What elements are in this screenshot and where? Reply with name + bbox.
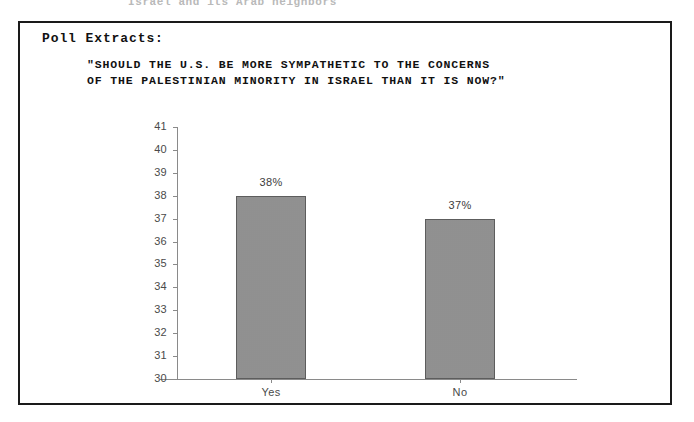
bar-value-label-no: 37% — [425, 199, 495, 211]
y-tick-label: 41 — [143, 120, 167, 132]
y-tick-mark — [173, 173, 178, 174]
y-tick-mark — [173, 379, 178, 380]
y-tick-mark — [173, 287, 178, 288]
x-tick-mark — [271, 379, 272, 383]
y-tick-label: 40 — [143, 143, 167, 155]
x-tick-mark — [460, 379, 461, 383]
y-tick-mark — [173, 264, 178, 265]
bar-yes — [236, 196, 306, 379]
bar-value-label-yes: 38% — [236, 176, 306, 188]
y-tick-label: 33 — [143, 303, 167, 315]
y-tick-label: 34 — [143, 280, 167, 292]
page-top-text-fragment: Israel and its Arab neighbors — [128, 0, 428, 8]
y-tick-label: 39 — [143, 166, 167, 178]
bar-no — [425, 219, 495, 379]
x-axis-category-label-yes: Yes — [236, 386, 306, 398]
y-tick-mark — [173, 242, 178, 243]
y-tick-mark — [173, 150, 178, 151]
y-tick-label: 38 — [143, 189, 167, 201]
poll-extract-panel: Poll Extracts: "SHOULD THE U.S. BE MORE … — [18, 21, 672, 405]
y-tick-label: 32 — [143, 326, 167, 338]
y-tick-mark — [173, 333, 178, 334]
y-axis-line — [177, 127, 178, 379]
y-tick-mark — [173, 196, 178, 197]
y-tick-label: 36 — [143, 235, 167, 247]
y-tick-mark — [173, 356, 178, 357]
x-axis-category-label-no: No — [425, 386, 495, 398]
x-axis-line — [160, 379, 577, 380]
y-tick-mark — [173, 219, 178, 220]
y-tick-label: 30 — [143, 372, 167, 384]
y-tick-mark — [173, 127, 178, 128]
poll-bar-chart: 414039383736353433323130 38%Yes37%No — [20, 23, 674, 407]
y-tick-label: 31 — [143, 349, 167, 361]
y-tick-mark — [173, 310, 178, 311]
y-tick-label: 37 — [143, 212, 167, 224]
y-tick-label: 35 — [143, 257, 167, 269]
